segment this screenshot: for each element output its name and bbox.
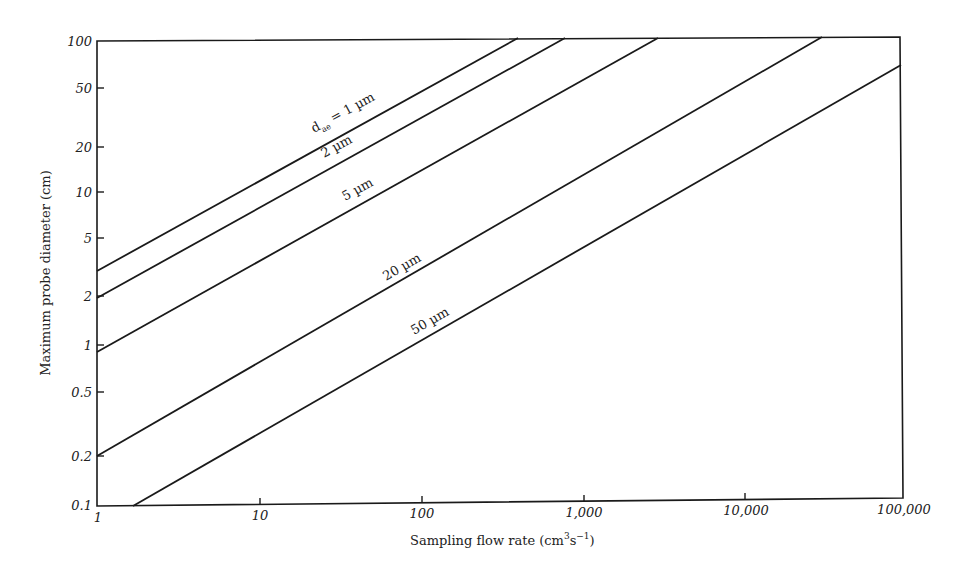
y-tick-label: 100 (67, 34, 92, 49)
series-label-2um: 2 µm (318, 132, 354, 161)
series-line-20um (97, 37, 822, 456)
series-line-2um (97, 38, 565, 298)
series-line-5um (97, 38, 658, 352)
series-line-1um (97, 38, 518, 271)
series-label-20um: 20 µm (380, 250, 423, 284)
x-tick-label: 1 (94, 510, 102, 525)
chart-canvas: 100 50 20 10 5 2 1 0.5 0.2 0.1 1 10 100 … (0, 0, 966, 576)
x-axis: 1 10 100 1,000 10,000 100,000 (94, 493, 931, 525)
series-line-50um (133, 65, 901, 506)
x-tick-label: 100,000 (877, 502, 931, 517)
x-tick-label: 10,000 (723, 503, 769, 518)
x-tick-label: 100 (410, 506, 435, 521)
x-axis-title: Sampling flow rate (cm3s−1) (410, 531, 595, 548)
y-tick-label: 0.1 (71, 498, 92, 513)
y-tick-label: 5 (84, 231, 92, 246)
y-tick-label: 10 (75, 185, 92, 200)
x-tick-label: 10 (252, 508, 269, 523)
y-tick-label: 50 (75, 81, 92, 96)
y-axis-title: Maximum probe diameter (cm) (38, 170, 53, 376)
y-tick-label: 1 (84, 338, 92, 353)
y-tick-label: 0.5 (71, 385, 92, 400)
y-tick-label: 2 (83, 289, 92, 304)
series-label-1um: dae = 1 µm (308, 89, 378, 138)
plot-frame (97, 37, 903, 506)
series-label-50um: 50 µm (408, 304, 451, 338)
series-lines (97, 37, 901, 506)
y-axis: 100 50 20 10 5 2 1 0.5 0.2 0.1 (67, 34, 104, 513)
y-tick-label: 20 (74, 140, 92, 155)
y-tick-label: 0.2 (71, 449, 92, 464)
x-tick-label: 1,000 (565, 505, 602, 520)
